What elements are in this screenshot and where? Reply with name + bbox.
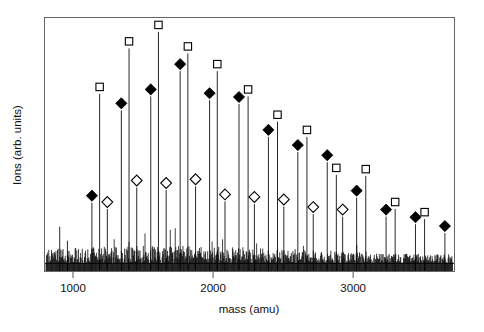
data-marker-open-square (303, 126, 310, 133)
spectrum-plot-svg: 100020003000 mass (amu) Ions (arb. units… (0, 0, 484, 332)
mass-spectrum-figure: 100020003000 mass (amu) Ions (arb. units… (0, 0, 484, 332)
data-marker-open-square (333, 164, 340, 171)
data-marker-open-square (214, 60, 221, 67)
data-marker-open-square (155, 21, 162, 28)
x-tick-label: 3000 (340, 282, 366, 294)
x-tick-label: 2000 (200, 282, 226, 294)
data-marker-open-square (244, 86, 251, 93)
x-axis-label: mass (amu) (219, 303, 280, 315)
y-axis-label: Ions (arb. units) (11, 105, 23, 185)
data-marker-open-square (184, 43, 191, 50)
data-marker-open-square (362, 165, 369, 172)
data-marker-open-square (96, 83, 103, 90)
data-marker-open-square (421, 208, 428, 215)
data-marker-open-square (391, 198, 398, 205)
data-marker-open-square (125, 38, 132, 45)
x-tick-label: 1000 (60, 282, 86, 294)
data-marker-open-square (274, 111, 281, 118)
